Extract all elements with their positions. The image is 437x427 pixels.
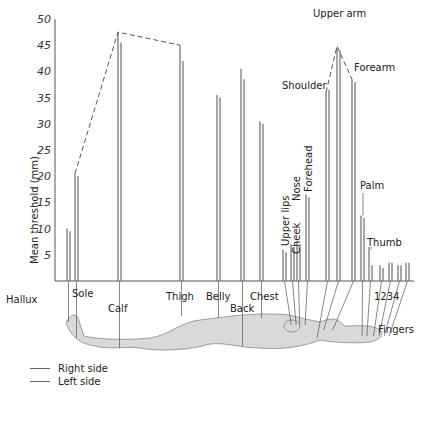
- y-tick: 40: [37, 65, 51, 78]
- label-forearm: Forearm: [354, 62, 395, 73]
- label-nose: Nose: [291, 176, 302, 201]
- label-sole: Sole: [72, 288, 93, 299]
- y-axis-label: Mean threshold (mm): [29, 156, 40, 264]
- legend-swatch-right: [30, 368, 50, 369]
- label-palm: Palm: [360, 180, 384, 191]
- legend-right-side: Right side: [30, 362, 108, 375]
- region-labels: Hallux Sole Calf Thigh Belly Back Chest …: [6, 8, 414, 335]
- axes: 5101520253035404550: [37, 13, 414, 281]
- label-finger-numbers: 1234: [374, 291, 399, 302]
- label-belly: Belly: [206, 291, 231, 302]
- legend-label-right: Right side: [58, 363, 108, 374]
- label-chest: Chest: [250, 291, 279, 302]
- y-tick: 45: [37, 39, 51, 52]
- label-fingers: Fingers: [378, 324, 414, 335]
- legend: Right side Left side: [30, 362, 108, 388]
- label-calf: Calf: [108, 303, 128, 314]
- label-upper-arm: Upper arm: [313, 8, 366, 19]
- y-tick: 35: [37, 92, 51, 105]
- label-upper-lips: Upper lips: [280, 195, 291, 246]
- label-shoulder: Shoulder: [282, 80, 327, 91]
- y-tick: 25: [37, 144, 51, 157]
- y-tick: 5: [44, 249, 51, 262]
- y-tick: 30: [37, 118, 51, 131]
- legend-label-left: Left side: [58, 376, 100, 387]
- legend-left-side: Left side: [30, 375, 108, 388]
- label-back: Back: [230, 303, 254, 314]
- label-hallux: Hallux: [6, 294, 38, 305]
- label-thigh: Thigh: [165, 291, 194, 302]
- body-silhouette: [66, 314, 382, 350]
- label-thumb: Thumb: [366, 237, 402, 248]
- label-cheek: Cheek: [291, 222, 302, 254]
- y-tick: 50: [37, 13, 51, 26]
- label-forehead: Forehead: [303, 145, 314, 192]
- head: [284, 320, 300, 332]
- legend-swatch-left: [30, 381, 50, 382]
